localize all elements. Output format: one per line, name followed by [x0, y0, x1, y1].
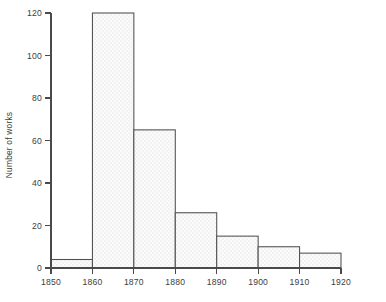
bars-group	[51, 13, 341, 268]
x-tick-label: 1860	[82, 277, 102, 287]
histogram-bar	[217, 236, 258, 268]
x-tick-label: 1850	[41, 277, 61, 287]
x-tick-label: 1870	[124, 277, 144, 287]
y-tick-label: 40	[32, 178, 42, 188]
x-tick-label: 1910	[290, 277, 310, 287]
histogram-bar	[300, 253, 341, 268]
histogram-figure: 020406080100120 185018601870188018901900…	[0, 0, 386, 302]
histogram-bar	[51, 260, 92, 269]
x-tick-label: 1900	[248, 277, 268, 287]
x-axis: 18501860187018801890190019101920	[41, 268, 351, 287]
histogram-bar	[258, 247, 299, 268]
y-tick-label: 120	[27, 8, 42, 18]
x-tick-label: 1890	[207, 277, 227, 287]
chart-canvas: 020406080100120 185018601870188018901900…	[0, 0, 386, 302]
x-ticks: 18501860187018801890190019101920	[41, 268, 351, 287]
y-tick-label: 0	[37, 263, 42, 273]
plot-area: 020406080100120 185018601870188018901900…	[4, 8, 351, 287]
x-tick-label: 1920	[331, 277, 351, 287]
histogram-bar	[134, 130, 175, 268]
y-axis-title: Number of works	[4, 112, 14, 178]
histogram-bar	[175, 213, 216, 268]
y-tick-label: 80	[32, 93, 42, 103]
y-axis: 020406080100120	[27, 8, 51, 273]
histogram-bar	[92, 13, 133, 268]
y-tick-label: 20	[32, 221, 42, 231]
x-tick-label: 1880	[165, 277, 185, 287]
y-ticks: 020406080100120	[27, 8, 51, 273]
y-tick-label: 100	[27, 51, 42, 61]
y-tick-label: 60	[32, 136, 42, 146]
